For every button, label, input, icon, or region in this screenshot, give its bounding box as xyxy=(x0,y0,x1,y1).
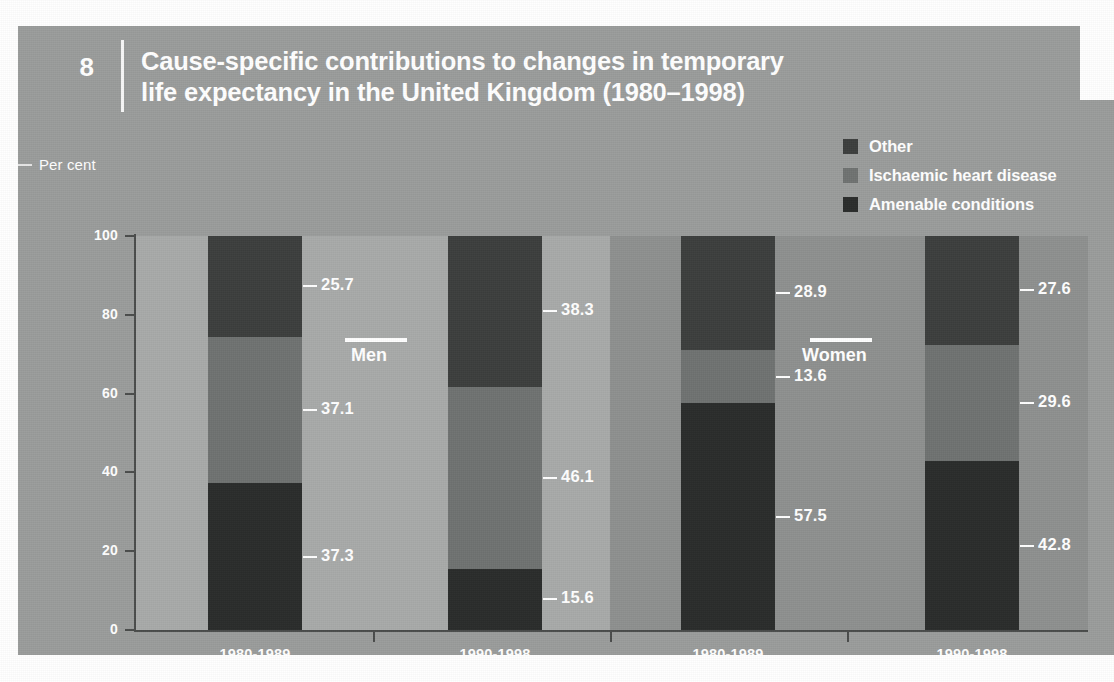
page-title: Cause-specific contributions to changes … xyxy=(141,46,861,107)
bar-segment xyxy=(448,387,542,569)
data-label: 46.1 xyxy=(561,467,594,486)
y-axis-tick xyxy=(125,314,136,316)
y-axis-caption-label: Per cent xyxy=(39,156,96,173)
y-axis-tick-label: 80 xyxy=(58,306,118,322)
data-label-leader xyxy=(543,310,557,312)
legend-swatch-icon xyxy=(843,197,858,212)
data-label-leader xyxy=(543,477,557,479)
bar-segment xyxy=(208,483,302,630)
bar-segment xyxy=(681,236,775,350)
y-axis-tick xyxy=(125,550,136,552)
bar-segment xyxy=(448,569,542,630)
data-label-leader xyxy=(776,292,790,294)
bar-segment xyxy=(208,236,302,337)
legend-swatch-icon xyxy=(843,168,858,183)
legend-label: Other xyxy=(869,137,913,156)
bar-segment xyxy=(925,461,1019,630)
data-label: 27.6 xyxy=(1038,279,1071,298)
page-trim-mark xyxy=(178,655,180,674)
data-label: 25.7 xyxy=(321,275,354,294)
stacked-bar xyxy=(208,236,302,630)
data-label: 57.5 xyxy=(794,506,827,525)
y-axis-tick-label: 0 xyxy=(58,621,118,637)
data-label-leader xyxy=(303,409,317,411)
data-label-leader xyxy=(776,376,790,378)
group-rule-men xyxy=(345,338,407,342)
data-label: 28.9 xyxy=(794,282,827,301)
data-label: 37.1 xyxy=(321,399,354,418)
legend-item-ischaemic-heart-disease: Ischaemic heart disease xyxy=(843,166,1057,185)
stacked-bar xyxy=(925,236,1019,630)
legend-label: Amenable conditions xyxy=(869,195,1034,214)
figure-number: 8 xyxy=(62,52,112,83)
data-label: 38.3 xyxy=(561,300,594,319)
dash-icon xyxy=(14,164,32,166)
data-label-leader xyxy=(1020,545,1034,547)
x-axis-category-label: 1990-1998 xyxy=(882,646,1062,662)
y-axis-tick xyxy=(125,471,136,473)
bar-segment xyxy=(208,337,302,483)
x-axis-category-label: 1980-1989 xyxy=(165,646,345,662)
y-axis-line xyxy=(134,234,136,632)
data-label-leader xyxy=(303,285,317,287)
bar-segment xyxy=(448,236,542,387)
legend-item-amenable-conditions: Amenable conditions xyxy=(843,195,1057,214)
x-axis-tick xyxy=(373,631,375,642)
bar-segment xyxy=(681,403,775,630)
stacked-bar xyxy=(681,236,775,630)
stacked-bar xyxy=(448,236,542,630)
data-label: 37.3 xyxy=(321,546,354,565)
y-axis-tick xyxy=(125,235,136,237)
x-axis-category-label: 1990-1998 xyxy=(405,646,585,662)
data-label: 29.6 xyxy=(1038,392,1071,411)
bar-segment xyxy=(681,350,775,404)
x-axis-tick xyxy=(847,631,849,642)
y-axis-tick-label: 60 xyxy=(58,385,118,401)
y-axis-caption: Per cent xyxy=(14,156,96,173)
legend-label: Ischaemic heart disease xyxy=(869,166,1057,185)
data-label-leader xyxy=(303,556,317,558)
bar-segment xyxy=(925,236,1019,345)
title-line-1: Cause-specific contributions to changes … xyxy=(141,47,784,75)
data-label: 13.6 xyxy=(794,366,827,385)
y-axis-tick xyxy=(125,393,136,395)
title-divider-rule xyxy=(121,40,124,112)
x-axis-tick xyxy=(610,631,612,642)
data-label-leader xyxy=(1020,289,1034,291)
data-label: 15.6 xyxy=(561,588,594,607)
legend-swatch-icon xyxy=(843,139,858,154)
y-axis-tick-label: 40 xyxy=(58,463,118,479)
data-label: 42.8 xyxy=(1038,535,1071,554)
data-label-leader xyxy=(776,516,790,518)
group-rule-women xyxy=(810,338,872,342)
chart-legend: Other Ischaemic heart disease Amenable c… xyxy=(843,137,1057,224)
figure-card: 8 Cause-specific contributions to change… xyxy=(0,0,1114,682)
bar-segment xyxy=(925,345,1019,462)
y-axis-tick xyxy=(125,629,136,631)
x-axis-category-label: 1980-1989 xyxy=(638,646,818,662)
group-label-women: Women xyxy=(802,345,867,366)
legend-item-other: Other xyxy=(843,137,1057,156)
data-label-leader xyxy=(543,598,557,600)
y-axis-tick-label: 100 xyxy=(58,227,118,243)
y-axis-tick-label: 20 xyxy=(58,542,118,558)
group-label-men: Men xyxy=(351,345,387,366)
data-label-leader xyxy=(1020,402,1034,404)
title-line-2: life expectancy in the United Kingdom (1… xyxy=(141,77,861,108)
